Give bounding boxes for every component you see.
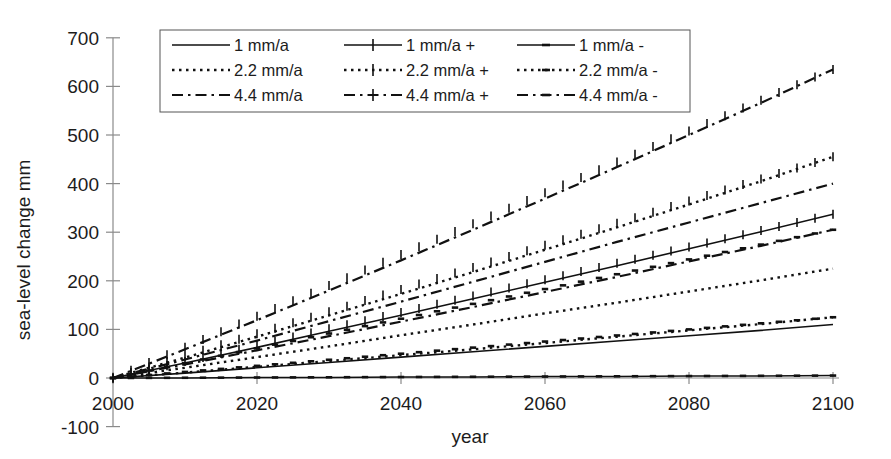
sea-level-line-chart: -1000100200300400500600700 2000202020402… bbox=[0, 0, 891, 459]
y-tick-label: 100 bbox=[67, 319, 99, 340]
x-tick-label: 2060 bbox=[524, 393, 566, 414]
y-tick-label: 0 bbox=[88, 368, 99, 389]
chart-figure: -1000100200300400500600700 2000202020402… bbox=[0, 0, 891, 459]
y-tick-label: 500 bbox=[67, 125, 99, 146]
y-axis-title: sea-level change mm bbox=[13, 160, 34, 341]
legend-label: 2.2 mm/a + bbox=[406, 61, 489, 79]
y-tick-label: 600 bbox=[67, 76, 99, 97]
legend-label: 4.4 mm/a - bbox=[579, 86, 658, 104]
x-tick-label: 2040 bbox=[380, 393, 422, 414]
y-tick-label: -100 bbox=[61, 417, 99, 438]
legend: 1 mm/a1 mm/a +1 mm/a -2.2 mm/a2.2 mm/a +… bbox=[160, 30, 690, 112]
y-tick-label: 400 bbox=[67, 174, 99, 195]
legend-label: 4.4 mm/a bbox=[234, 86, 304, 104]
x-tick-label: 2080 bbox=[668, 393, 710, 414]
legend-label: 4.4 mm/a + bbox=[406, 86, 489, 104]
x-axis-title: year bbox=[452, 426, 490, 447]
x-tick-label: 2000 bbox=[92, 393, 134, 414]
y-tick-label: 300 bbox=[67, 222, 99, 243]
legend-label: 1 mm/a bbox=[234, 36, 290, 54]
x-tick-label: 2100 bbox=[812, 393, 854, 414]
legend-label: 1 mm/a - bbox=[579, 36, 644, 54]
legend-label: 1 mm/a + bbox=[406, 36, 475, 54]
y-tick-label: 200 bbox=[67, 271, 99, 292]
y-tick-label: 700 bbox=[67, 28, 99, 49]
legend-label: 2.2 mm/a bbox=[234, 61, 304, 79]
legend-label: 2.2 mm/a - bbox=[579, 61, 658, 79]
x-tick-label: 2020 bbox=[236, 393, 278, 414]
